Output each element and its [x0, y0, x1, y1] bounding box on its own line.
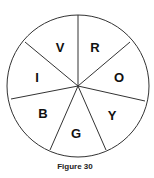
figure-caption: Figure 30 — [0, 162, 150, 171]
sector-label-v: V — [56, 41, 65, 54]
sector-label-i: I — [35, 71, 39, 84]
sector-label-r: R — [90, 41, 99, 54]
sector-label-g: G — [71, 127, 81, 140]
sector-label-b: B — [38, 107, 47, 120]
sector-label-y: Y — [108, 109, 117, 122]
sector-label-o: O — [114, 71, 124, 84]
circle-diagram — [0, 0, 154, 178]
